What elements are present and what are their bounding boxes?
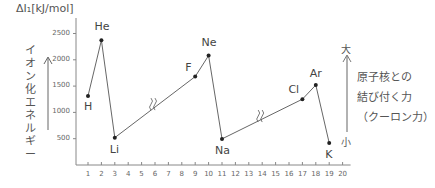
y-tick-label: 500 xyxy=(30,134,70,142)
x-tick-label: 18 xyxy=(309,170,323,178)
x-tick-label: 13 xyxy=(242,170,256,178)
x-tick-label: 4 xyxy=(121,170,135,178)
data-point xyxy=(207,54,211,58)
x-tick-label: 5 xyxy=(135,170,149,178)
data-point xyxy=(86,94,90,98)
element-label: Ne xyxy=(202,36,217,49)
element-label: H xyxy=(84,100,92,113)
small-label: 小 xyxy=(341,134,351,149)
data-point xyxy=(193,75,197,79)
x-tick-label: 3 xyxy=(108,170,122,178)
data-point xyxy=(220,137,224,141)
x-tick-label: 6 xyxy=(148,170,162,178)
element-label: K xyxy=(325,148,332,161)
y-tick-label: 1500 xyxy=(30,81,70,89)
note-line-1: 原子核との xyxy=(357,68,434,88)
element-label: Cl xyxy=(288,83,299,96)
x-tick-label: 9 xyxy=(188,170,202,178)
vchar: ー xyxy=(24,148,36,161)
element-label: He xyxy=(94,20,109,33)
y-tick-label: 1000 xyxy=(30,107,70,115)
x-tick-label: 20 xyxy=(336,170,350,178)
x-tick-label: 2 xyxy=(94,170,108,178)
element-label: Ar xyxy=(310,67,322,80)
x-tick-label: 15 xyxy=(269,170,283,178)
x-tick-label: 1 xyxy=(81,170,95,178)
data-point xyxy=(99,38,103,42)
note-line-3: （クーロン力） xyxy=(357,108,434,128)
element-label: Na xyxy=(215,144,230,157)
y-axis-title: ΔI₁[kJ/mol] xyxy=(16,2,74,15)
element-label: F xyxy=(185,61,191,74)
y-tick-label: 2500 xyxy=(30,29,70,37)
data-point xyxy=(327,141,331,145)
coulomb-force-note: 原子核との 結び付く力 （クーロン力） xyxy=(357,68,434,128)
data-point xyxy=(113,136,117,140)
x-tick-label: 8 xyxy=(175,170,189,178)
x-tick-label: 19 xyxy=(322,170,336,178)
data-point xyxy=(300,97,304,101)
data-point xyxy=(314,83,318,87)
x-tick-label: 16 xyxy=(282,170,296,178)
x-tick-label: 17 xyxy=(295,170,309,178)
element-label: Li xyxy=(110,143,119,156)
x-tick-label: 12 xyxy=(228,170,242,178)
large-label: 大 xyxy=(341,41,351,56)
note-line-2: 結び付く力 xyxy=(357,88,434,108)
x-tick-label: 11 xyxy=(215,170,229,178)
x-tick-label: 10 xyxy=(202,170,216,178)
x-tick-label: 7 xyxy=(161,170,175,178)
y-tick-label: 2000 xyxy=(30,55,70,63)
x-tick-label: 14 xyxy=(255,170,269,178)
